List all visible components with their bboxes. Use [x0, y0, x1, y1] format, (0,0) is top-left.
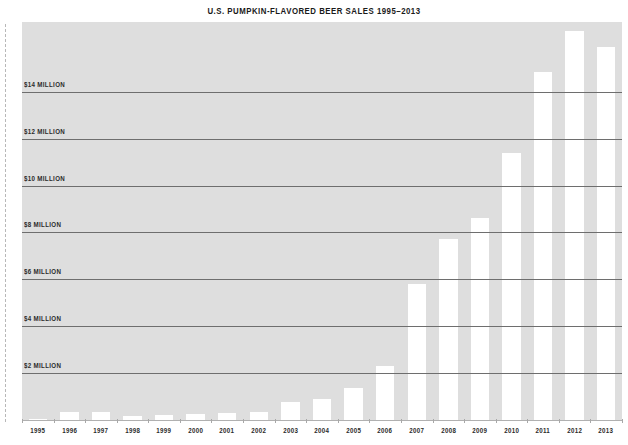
x-tick-mark [622, 419, 623, 423]
x-tick-mark [148, 419, 149, 423]
x-tick-label-1999: 1999 [149, 427, 179, 434]
plot-area [22, 22, 622, 420]
gridline-6 [22, 279, 622, 280]
x-tick-mark [559, 419, 560, 423]
bar-2013 [597, 47, 615, 420]
x-tick-mark [401, 419, 402, 423]
y-tick-label: $14 MILLION [24, 81, 65, 88]
x-tick-mark [590, 419, 591, 423]
x-tick-label-2006: 2006 [370, 427, 400, 434]
x-tick-label-1996: 1996 [54, 427, 84, 434]
x-tick-mark [117, 419, 118, 423]
x-tick-label-2012: 2012 [560, 427, 590, 434]
y-tick-label: $4 MILLION [24, 315, 61, 322]
x-tick-label-2001: 2001 [212, 427, 242, 434]
x-tick-mark [433, 419, 434, 423]
x-tick-mark [275, 419, 276, 423]
x-tick-label-2005: 2005 [339, 427, 369, 434]
x-tick-mark [211, 419, 212, 423]
x-tick-label-2000: 2000 [181, 427, 211, 434]
gridline-10 [22, 186, 622, 187]
x-tick-label-1995: 1995 [23, 427, 53, 434]
x-tick-mark [306, 419, 307, 423]
bar-2004 [313, 399, 331, 420]
y-tick-label: $10 MILLION [24, 175, 65, 182]
bar-1998 [123, 416, 141, 420]
x-tick-label-2011: 2011 [528, 427, 558, 434]
x-tick-mark [22, 419, 23, 423]
bar-1995 [29, 419, 47, 420]
y-tick-label: $12 MILLION [24, 128, 65, 135]
x-tick-label-2010: 2010 [496, 427, 526, 434]
y-tick-label: $6 MILLION [24, 268, 61, 275]
x-tick-label-2003: 2003 [275, 427, 305, 434]
x-tick-label-2004: 2004 [307, 427, 337, 434]
bar-2001 [218, 413, 236, 420]
left-dashed-rule [5, 24, 6, 422]
gridline-14 [22, 92, 622, 93]
x-tick-mark [180, 419, 181, 423]
chart-title: U.S. PUMPKIN-FLAVORED BEER SALES 1995–20… [25, 6, 603, 16]
bar-2007 [408, 284, 426, 420]
x-tick-mark [338, 419, 339, 423]
x-tick-label-1998: 1998 [118, 427, 148, 434]
x-tick-label-2002: 2002 [244, 427, 274, 434]
bar-1999 [155, 415, 173, 420]
y-tick-label: $8 MILLION [24, 221, 61, 228]
bar-2000 [186, 414, 204, 420]
gridline-8 [22, 232, 622, 233]
bar-2011 [534, 72, 552, 420]
bar-2003 [281, 402, 299, 420]
x-axis-line [22, 420, 622, 421]
bar-2006 [376, 366, 394, 420]
bar-2005 [344, 388, 362, 420]
gridline-2 [22, 373, 622, 374]
bar-2010 [502, 153, 520, 420]
x-tick-mark [496, 419, 497, 423]
y-tick-label: $2 MILLION [24, 362, 61, 369]
x-tick-mark [527, 419, 528, 423]
x-tick-mark [464, 419, 465, 423]
x-tick-label-1997: 1997 [86, 427, 116, 434]
x-tick-mark [369, 419, 370, 423]
bar-2012 [565, 31, 583, 420]
bar-2008 [439, 239, 457, 420]
x-tick-mark [54, 419, 55, 423]
bar-1996 [60, 412, 78, 420]
bar-2009 [471, 218, 489, 420]
chart-figure: U.S. PUMPKIN-FLAVORED BEER SALES 1995–20… [0, 0, 628, 445]
bar-2002 [250, 412, 268, 420]
x-tick-label-2013: 2013 [591, 427, 621, 434]
x-tick-label-2008: 2008 [433, 427, 463, 434]
gridline-12 [22, 139, 622, 140]
x-tick-mark [85, 419, 86, 423]
bar-1997 [92, 412, 110, 420]
x-tick-mark [243, 419, 244, 423]
gridline-4 [22, 326, 622, 327]
x-tick-label-2007: 2007 [402, 427, 432, 434]
x-tick-label-2009: 2009 [465, 427, 495, 434]
